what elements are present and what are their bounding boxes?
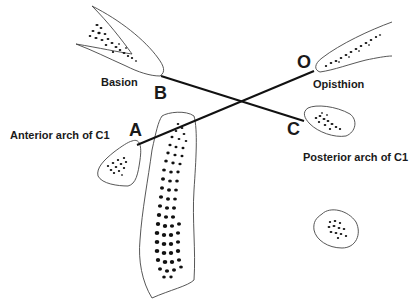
point-c-letter: C — [287, 120, 300, 138]
point-o-letter: O — [297, 53, 311, 71]
point-a-letter: A — [129, 121, 142, 139]
diagram-canvas: Basion B O Opisthion A Anterior arch of … — [0, 0, 417, 307]
basion-bone — [76, 6, 164, 76]
lower-bone-dots — [328, 220, 348, 239]
dens-trabecular-dots — [155, 123, 188, 279]
point-b-letter: B — [154, 84, 167, 102]
posterior-arch-c1-bone — [304, 106, 355, 136]
anterior-arch-dots — [107, 157, 127, 176]
opisthion-bone — [316, 22, 392, 72]
lower-bone-section — [314, 210, 359, 248]
opisthion-label: Opisthion — [313, 79, 364, 90]
posterior-arch-label: Posterior arch of C1 — [303, 152, 408, 163]
anterior-arch-c1-bone — [98, 140, 141, 186]
basion-label: Basion — [101, 77, 138, 88]
line-b-to-c — [161, 76, 304, 121]
anterior-arch-label: Anterior arch of C1 — [10, 130, 110, 141]
posterior-arch-dots — [315, 112, 341, 130]
